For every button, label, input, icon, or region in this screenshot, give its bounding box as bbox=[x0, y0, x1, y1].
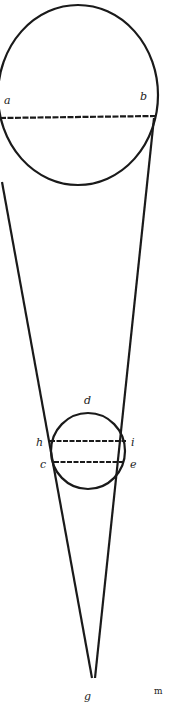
cone-diagram: a b d h i c e g m bbox=[0, 0, 169, 707]
small-sphere bbox=[51, 413, 125, 489]
cone-left-side bbox=[2, 182, 92, 678]
large-sphere bbox=[0, 5, 158, 185]
label-i: i bbox=[131, 436, 135, 449]
label-g: g bbox=[84, 690, 91, 703]
diameter-ab bbox=[0, 116, 156, 118]
corner-mark: m bbox=[154, 686, 163, 696]
label-d: d bbox=[84, 394, 91, 407]
label-b: b bbox=[140, 90, 147, 103]
label-e: e bbox=[130, 458, 137, 471]
cone-right-side bbox=[95, 118, 154, 678]
label-c: c bbox=[40, 458, 46, 471]
label-h: h bbox=[36, 436, 43, 449]
label-a: a bbox=[4, 94, 11, 107]
